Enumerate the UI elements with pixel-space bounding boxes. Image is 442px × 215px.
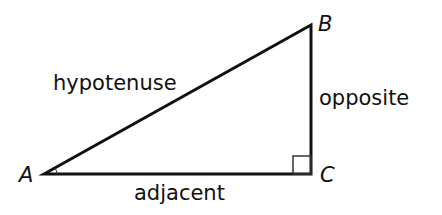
vertex-label-b: B (318, 14, 332, 35)
triangle-outline (44, 25, 311, 174)
side-label-adjacent: adjacent (134, 183, 225, 204)
side-label-opposite: opposite (319, 88, 409, 109)
vertex-label-a: A (19, 165, 33, 186)
right-angle-marker (293, 156, 311, 174)
vertex-label-c: C (320, 165, 335, 186)
side-label-hypotenuse: hypotenuse (53, 73, 177, 94)
